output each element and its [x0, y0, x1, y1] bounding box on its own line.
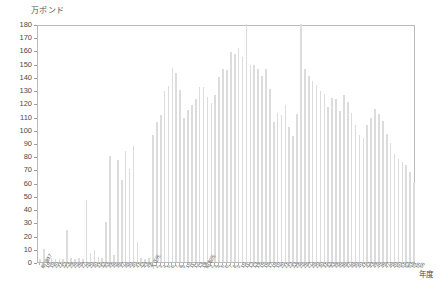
bar — [405, 165, 407, 262]
y-axis-tick: 150 — [0, 65, 37, 66]
bar — [265, 69, 267, 262]
y-axis-tick-label: 20 — [24, 232, 32, 241]
bar — [370, 118, 372, 262]
y-axis-tick: 90 — [0, 144, 37, 145]
bar-chart: 万ポンド 01020304050607080901001101201301401… — [0, 0, 448, 299]
bar — [335, 99, 337, 262]
bar — [199, 87, 201, 262]
y-axis-tick-label: 140 — [19, 73, 32, 82]
y-axis-tick-label: 80 — [24, 152, 32, 161]
y-axis-tick-label: 90 — [24, 139, 32, 148]
bar — [386, 134, 388, 262]
bar — [121, 180, 123, 262]
y-axis-tick-label: 110 — [20, 113, 32, 122]
x-axis-tick-mark — [288, 263, 289, 265]
y-axis-tick: 100 — [0, 131, 37, 132]
bar — [203, 87, 205, 262]
bar — [109, 156, 111, 262]
bars-layer — [38, 26, 414, 262]
y-axis-tick: 10 — [0, 250, 37, 251]
bar — [339, 111, 341, 262]
y-axis-tick-label: 30 — [24, 218, 32, 227]
bar — [359, 135, 361, 262]
bar — [320, 91, 322, 262]
bar — [398, 159, 400, 262]
x-axis: 明治17181920212223242526272829303132333435… — [37, 263, 415, 299]
bar — [366, 125, 368, 263]
bar — [355, 125, 357, 263]
bar — [285, 105, 287, 262]
bar — [183, 118, 185, 262]
bar — [304, 69, 306, 262]
bar — [363, 138, 365, 262]
bar — [195, 99, 197, 262]
bar — [296, 114, 298, 262]
y-axis: 0102030405060708090100110120130140150160… — [0, 25, 37, 263]
y-axis-tick: 180 — [0, 25, 37, 26]
y-axis-tick: 80 — [0, 157, 37, 158]
bar — [191, 105, 193, 262]
bar — [331, 98, 333, 262]
y-axis-tick-label: 0 — [28, 258, 32, 267]
bar — [261, 76, 263, 262]
bar — [152, 135, 154, 262]
bar — [343, 95, 345, 262]
bar — [324, 94, 326, 262]
y-axis-tick: 120 — [0, 104, 37, 105]
bar — [246, 24, 248, 262]
y-axis-tick: 110 — [0, 118, 37, 119]
bar — [164, 91, 166, 262]
bar — [253, 65, 255, 262]
bar — [394, 154, 396, 262]
y-axis-tick: 70 — [0, 170, 37, 171]
bar — [327, 107, 329, 262]
bar — [187, 110, 189, 262]
bar — [234, 54, 236, 262]
bar — [175, 73, 177, 262]
y-axis-tick: 140 — [0, 78, 37, 79]
bar — [218, 77, 220, 262]
y-axis-tick: 50 — [0, 197, 37, 198]
y-axis-tick-label: 40 — [24, 205, 32, 214]
bar — [39, 259, 41, 262]
bar — [129, 169, 131, 262]
x-axis-tick-mark — [249, 263, 250, 265]
bar — [351, 113, 353, 262]
bar — [137, 242, 139, 262]
y-axis-tick-label: 50 — [24, 192, 32, 201]
bar — [125, 151, 127, 262]
bar — [257, 69, 259, 262]
bar — [273, 122, 275, 262]
bar — [269, 89, 271, 262]
plot-area — [37, 25, 415, 263]
bar — [86, 200, 88, 262]
bar — [214, 95, 216, 262]
bar — [230, 52, 232, 262]
bar — [347, 102, 349, 262]
y-axis-tick-label: 160 — [19, 46, 32, 55]
y-axis-tick-label: 130 — [19, 86, 32, 95]
y-axis-tick-label: 60 — [24, 179, 32, 188]
bar — [402, 162, 404, 262]
bar — [413, 183, 415, 262]
y-axis-tick-label: 180 — [19, 20, 32, 29]
y-axis-tick: 20 — [0, 237, 37, 238]
y-axis-tick: 130 — [0, 91, 37, 92]
y-axis-tick-label: 150 — [19, 60, 32, 69]
bar — [308, 76, 310, 262]
bar — [378, 114, 380, 262]
y-axis-tick-label: 100 — [19, 126, 32, 135]
x-axis-tick-mark — [401, 263, 402, 265]
bar — [382, 121, 384, 262]
bar — [211, 103, 213, 262]
bar — [133, 146, 135, 262]
bar — [374, 109, 376, 262]
y-axis-tick-label: 170 — [19, 33, 32, 42]
y-axis-tick: 30 — [0, 223, 37, 224]
bar — [207, 97, 209, 262]
bar — [390, 143, 392, 262]
bar — [250, 65, 252, 262]
bar — [316, 85, 318, 262]
bar — [409, 172, 411, 262]
y-axis-tick: 0 — [0, 263, 37, 264]
